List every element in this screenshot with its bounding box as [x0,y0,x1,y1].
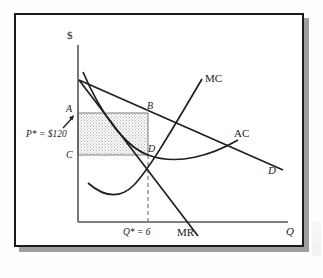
point-label-d: D [148,144,155,154]
point-label-b: B [147,101,153,111]
point-label-c: C [66,150,73,160]
y-axis-label: $ [67,30,73,41]
marginal-revenue-curve [79,80,198,236]
point-label-a: A [66,104,72,114]
ac-curve-label: AC [234,128,249,139]
mc-curve-label: MC [205,73,222,84]
demand-curve-label: D [268,165,276,176]
price-annotation: P* = $120 [26,130,67,140]
quantity-annotation: Q* = 6 [123,228,151,238]
figure-page: $ Q A B C D P* = $120 Q* = 6 MC AC D MR [0,0,323,278]
mr-curve-label: MR [177,227,194,238]
x-axis-label: Q [286,226,294,237]
